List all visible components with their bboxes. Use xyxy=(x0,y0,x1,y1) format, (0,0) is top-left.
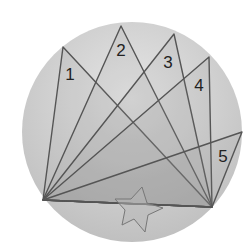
triangle-label-3: 3 xyxy=(163,53,172,72)
triangles-diagram: 12345 xyxy=(0,0,252,247)
triangle-label-5: 5 xyxy=(218,147,227,166)
triangle-label-1: 1 xyxy=(65,65,74,84)
diagram-stage: 12345 xyxy=(0,0,252,247)
triangle-label-4: 4 xyxy=(194,76,203,95)
triangle-label-2: 2 xyxy=(116,41,125,60)
